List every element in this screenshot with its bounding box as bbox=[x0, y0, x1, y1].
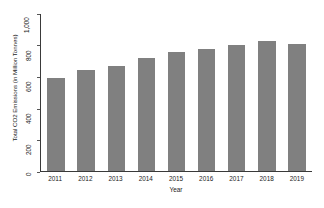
x-tick-label: 2012 bbox=[70, 174, 100, 184]
bar[interactable] bbox=[138, 58, 155, 171]
bar-series bbox=[41, 14, 312, 171]
bar-slot bbox=[71, 14, 101, 171]
bar[interactable] bbox=[258, 41, 275, 171]
x-tick-label: 2016 bbox=[191, 174, 221, 184]
x-tick-label: 2011 bbox=[40, 174, 70, 184]
bar[interactable] bbox=[288, 44, 305, 171]
y-tick-label: 400 bbox=[24, 113, 33, 124]
y-axis-title: Total CO2 Emissions (in Million Tonnes) bbox=[8, 2, 22, 174]
bar-slot bbox=[192, 14, 222, 171]
bar[interactable] bbox=[198, 49, 215, 171]
x-axis-tick-labels: 201120122013201420152016201720182019 bbox=[40, 174, 312, 184]
y-tick-label: 200 bbox=[24, 144, 33, 155]
bar-slot bbox=[131, 14, 161, 171]
plot-area bbox=[40, 14, 312, 172]
y-tick-label: 0 bbox=[24, 172, 33, 176]
x-tick-label: 2013 bbox=[100, 174, 130, 184]
y-tick-mark bbox=[37, 172, 40, 173]
bar-slot bbox=[101, 14, 131, 171]
x-tick-label: 2018 bbox=[252, 174, 282, 184]
bar-slot bbox=[222, 14, 252, 171]
x-tick-label: 2015 bbox=[161, 174, 191, 184]
y-tick-label: 800 bbox=[24, 50, 33, 61]
x-tick-label: 2017 bbox=[221, 174, 251, 184]
bar[interactable] bbox=[108, 66, 125, 171]
bar[interactable] bbox=[77, 70, 94, 171]
y-tick-label: 1,000 bbox=[22, 17, 31, 33]
x-axis-title: Year bbox=[40, 186, 312, 193]
y-tick-label: 600 bbox=[24, 81, 33, 92]
bar-slot bbox=[41, 14, 71, 171]
bar[interactable] bbox=[168, 52, 185, 171]
bar-chart-figure: Total CO2 Emissions (in Million Tonnes) … bbox=[0, 0, 324, 208]
bar-slot bbox=[252, 14, 282, 171]
x-tick-label: 2019 bbox=[282, 174, 312, 184]
bar[interactable] bbox=[47, 78, 64, 171]
bar-slot bbox=[282, 14, 312, 171]
x-tick-label: 2014 bbox=[131, 174, 161, 184]
bar-slot bbox=[161, 14, 191, 171]
bar[interactable] bbox=[228, 45, 245, 171]
